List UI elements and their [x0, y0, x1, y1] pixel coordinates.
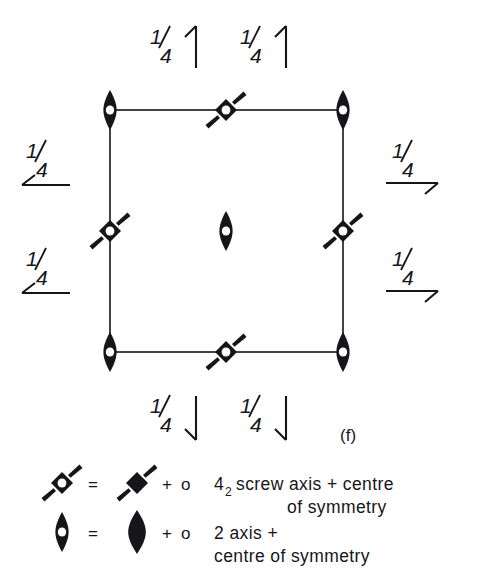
fraction-denominator: 4 [36, 266, 48, 289]
symmetry-element-corner-bottom-left [103, 332, 116, 372]
symmetry-diagram-figure: 1 4 1 4 1 4 [0, 0, 477, 588]
legend-equals-sign: = [88, 475, 98, 494]
symmetry-elements-layer [90, 90, 364, 372]
arrow-right-upper [386, 183, 438, 194]
fraction-denominator: 4 [160, 413, 172, 436]
legend-plus-sign: + [162, 475, 172, 494]
height-label-left-lower: 1 4 [22, 247, 70, 293]
fraction-bottom-right: 1 4 [240, 394, 262, 436]
arrow-up-top-left [185, 26, 196, 68]
diagram-canvas: 1 4 1 4 1 4 [0, 0, 477, 588]
legend-base-two-fold-symbol [128, 510, 146, 554]
legend-two-fold-description: 2 axis + [214, 523, 278, 543]
height-label-left-upper: 1 4 [22, 139, 70, 185]
symmetry-element-corner-bottom-right [336, 332, 349, 372]
legend-combined-two-fold-symbol [55, 512, 68, 552]
arrow-right-lower [386, 291, 438, 302]
figure-label: (f) [340, 426, 356, 445]
fraction-left-lower: 1 4 [26, 247, 48, 289]
fraction-top-right: 1 4 [240, 25, 262, 67]
fraction-top-left: 1 4 [150, 25, 172, 67]
legend-combined-screw-symbol [42, 465, 83, 502]
fraction-right-lower: 1 4 [392, 247, 414, 289]
height-label-top-right: 1 4 [240, 25, 286, 68]
height-label-bottom-right: 1 4 [240, 394, 286, 440]
legend-screw-description: screw axis + centre [236, 474, 394, 494]
symmetry-element-corner-top-left [103, 90, 116, 130]
fraction-left-upper: 1 4 [26, 139, 48, 181]
height-label-right-lower: 1 4 [386, 247, 438, 302]
fraction-denominator: 4 [160, 44, 172, 67]
fraction-denominator: 4 [250, 413, 262, 436]
fraction-denominator: 4 [250, 44, 262, 67]
legend-row-screw: = + o 4 2 screw axis + centre of symmetr… [42, 465, 394, 518]
legend-screw-subscript: 2 [225, 485, 232, 499]
arrow-down-bottom-left [185, 396, 196, 440]
height-label-top-left: 1 4 [150, 25, 196, 68]
legend-plus-sign: + [162, 524, 172, 543]
legend-base-screw-symbol [117, 465, 158, 502]
legend-equals-sign: = [88, 524, 98, 543]
legend-centre-symbol: o [181, 475, 190, 494]
legend-screw-description-line2: of symmetry [287, 497, 387, 517]
legend-row-two-fold: = + o 2 axis + centre of symmetry [55, 510, 370, 566]
height-label-right-upper: 1 4 [386, 139, 438, 194]
height-label-bottom-left: 1 4 [150, 394, 196, 440]
symmetry-element-cell-centre [219, 211, 232, 251]
symmetry-element-corner-top-right [336, 90, 349, 130]
legend-two-fold-description-line2: centre of symmetry [214, 546, 370, 566]
fraction-denominator: 4 [402, 266, 414, 289]
fraction-right-upper: 1 4 [392, 139, 414, 181]
legend-screw-order: 4 [214, 474, 224, 494]
fraction-denominator: 4 [402, 158, 414, 181]
arrow-down-bottom-right [275, 396, 286, 440]
arrow-up-top-right [275, 26, 286, 68]
legend-centre-symbol: o [181, 524, 190, 543]
fraction-denominator: 4 [36, 158, 48, 181]
fraction-bottom-left: 1 4 [150, 394, 172, 436]
